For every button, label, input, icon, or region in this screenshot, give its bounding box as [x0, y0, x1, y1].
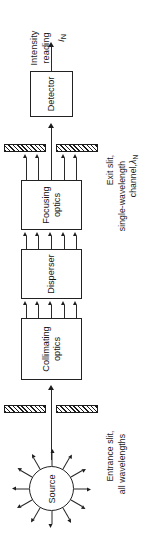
exit-ray-line-4	[76, 158, 77, 180]
block-focusing-optics[interactable]: Focusing optics	[21, 180, 82, 230]
exit-ray-line-1	[26, 158, 27, 180]
collimated-ray-arrowhead-2	[35, 301, 39, 305]
block-disperser[interactable]: Disperser	[21, 249, 82, 299]
collimator-input-beam-line	[51, 390, 52, 412]
block-detector-label-line1: Detector	[46, 77, 56, 112]
dispersed-ray-line-5	[76, 236, 77, 249]
entrance-slit-caption-line2: all wavelengths	[117, 434, 127, 494]
source-ray-5	[71, 499, 83, 506]
block-focusing-optics-label-line2: optics	[52, 193, 62, 217]
exit-ray-arrowhead-3	[61, 154, 65, 158]
entrance-slit-jaw-right	[56, 405, 98, 413]
block-disperser-label-line1: Disperser	[46, 254, 56, 293]
source-ray-11	[20, 470, 32, 477]
exit-ray-arrowhead-2	[35, 154, 39, 158]
block-detector-label: Detector	[46, 77, 57, 112]
block-focusing-optics-label-line1: Focusing	[40, 186, 50, 223]
output-beam-line	[51, 46, 52, 71]
dispersed-ray-arrowhead-5	[73, 232, 77, 236]
exit-slit-caption-line2: single-wavelength	[117, 161, 127, 232]
collimated-ray-arrowhead-4	[61, 301, 65, 305]
source-ray-6	[62, 508, 69, 520]
source-ray-1	[51, 453, 52, 466]
collimated-ray-arrowhead-3	[48, 301, 52, 305]
dispersed-ray-arrowhead-4	[61, 232, 65, 236]
exit-ray-line-3	[64, 158, 65, 180]
exit-slit-symbol: λ	[128, 160, 138, 164]
dispersed-ray-line-4	[64, 236, 65, 249]
collimated-ray-line-4	[64, 305, 65, 318]
entrance-slit-jaw-left	[4, 405, 46, 413]
intensity-symbol-letter: I	[55, 39, 66, 42]
dispersed-ray-arrowhead-1	[23, 232, 27, 236]
dispersed-ray-arrowhead-3	[48, 232, 52, 236]
source-label: Source	[47, 474, 57, 503]
output-beam-arrowhead	[48, 42, 54, 47]
source-ray-4	[74, 488, 87, 489]
block-collimating-optics-label-line1: Collimating	[40, 326, 50, 371]
exit-ray-arrowhead-4	[73, 154, 77, 158]
source-ray-2	[62, 457, 69, 469]
collimated-ray-line-5	[76, 305, 77, 318]
collimated-ray-line-1	[26, 305, 27, 318]
intensity-symbol: IN	[55, 34, 68, 42]
intensity-symbol-subscript: N	[59, 34, 68, 39]
dispersed-ray-line-1	[26, 236, 27, 249]
detector-input-beam-line	[51, 128, 52, 150]
dispersed-ray-line-3	[51, 236, 52, 249]
collimated-ray-line-3	[51, 305, 52, 318]
intensity-reading-line2: reading	[41, 32, 52, 63]
block-collimating-optics[interactable]: Collimating optics	[21, 318, 82, 380]
block-collimating-optics-label-line2: optics	[52, 337, 62, 361]
collimated-ray-arrowhead-1	[23, 301, 27, 305]
source-circle[interactable]: Source	[29, 466, 74, 511]
exit-slit-caption-line3-text: channel,	[128, 164, 138, 197]
block-detector[interactable]: Detector	[30, 71, 73, 117]
exit-ray-arrowhead-1	[23, 154, 27, 158]
dispersed-ray-arrowhead-2	[35, 232, 39, 236]
exit-slit-caption-line1: Exit slit,	[105, 155, 115, 186]
collimated-ray-line-2	[38, 305, 39, 318]
dispersed-ray-line-2	[38, 236, 39, 249]
exit-ray-line-center	[51, 150, 52, 180]
exit-slit-jaw-left	[4, 144, 46, 152]
diagram-canvas: Intensity reading IN Detector Exit slit,…	[0, 0, 147, 541]
entrance-slit-caption-line1: Entrance slit,	[105, 430, 115, 481]
source-ray-7	[51, 511, 52, 524]
exit-ray-line-2	[38, 158, 39, 180]
source-ray-12	[33, 457, 40, 469]
block-disperser-label: Disperser	[46, 254, 57, 293]
exit-slit-caption-line3: channel,λN	[128, 155, 139, 197]
exit-slit-jaw-right	[56, 144, 98, 152]
source-ray-8	[33, 508, 40, 520]
detector-input-beam-arrowhead	[48, 123, 54, 128]
exit-slit-symbol-subscript: N	[132, 155, 139, 160]
intensity-reading-line1: Intensity	[29, 30, 40, 65]
entrance-slit-caption: Entrance slit, all wavelengths	[104, 380, 146, 472]
block-focusing-optics-label: Focusing optics	[40, 186, 62, 223]
exit-slit-caption: Exit slit, single-wavelength channel,λN	[104, 110, 146, 202]
source-ray-9	[20, 499, 32, 506]
block-collimating-optics-label: Collimating optics	[40, 326, 62, 371]
source-ray-3	[71, 470, 83, 477]
collimated-ray-arrowhead-5	[73, 301, 77, 305]
source-ray-10	[16, 488, 29, 489]
collimator-input-beam-arrowhead	[48, 385, 54, 390]
